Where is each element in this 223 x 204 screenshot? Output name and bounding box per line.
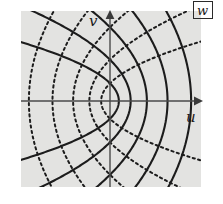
figure-container: u v w — [0, 0, 223, 204]
v-axis-label: v — [89, 12, 98, 30]
u-axis-label: u — [186, 108, 196, 126]
plane-label-w: w — [197, 3, 208, 18]
parabolic-coordinate-plot: u v w — [0, 0, 223, 204]
plot-panel — [21, 11, 201, 187]
